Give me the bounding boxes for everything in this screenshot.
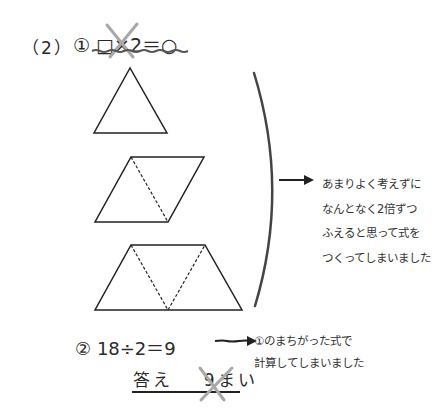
- triangle-figure: [94, 68, 167, 133]
- answer-cross-mark: [200, 368, 232, 400]
- arrow-to-note1-icon: [279, 175, 314, 185]
- parallelogram-figure: [95, 157, 204, 222]
- step1-underline: [92, 50, 188, 52]
- trapezoid-figure: [95, 245, 242, 310]
- arrow-to-note2-icon: [215, 336, 257, 346]
- drawing-layer: [0, 0, 440, 415]
- bracket-mark: [254, 73, 272, 306]
